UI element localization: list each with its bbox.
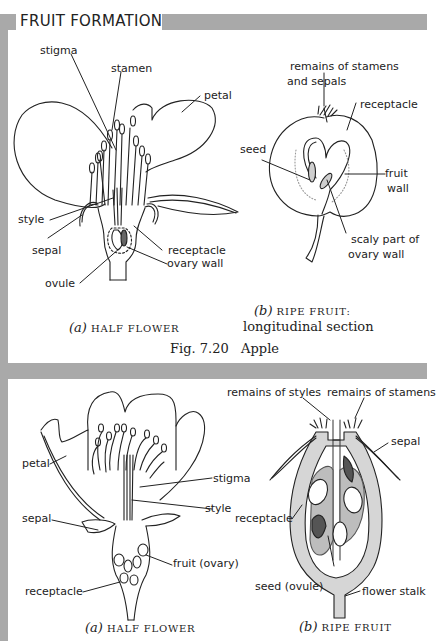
- label-fruit-wall-2: wall: [387, 182, 409, 195]
- caption-apple-b-sub: longitudinal section: [243, 319, 374, 334]
- label-ovary-wall: ovary wall: [167, 257, 223, 270]
- label-receptacle-b: receptacle: [360, 98, 418, 111]
- label-fruit-wall-1: fruit: [385, 167, 408, 180]
- label-stigma: stigma: [40, 44, 78, 57]
- label-scaly-1: scaly part of: [351, 233, 419, 246]
- caption-letter: (b): [299, 619, 317, 634]
- caption-letter: (a): [85, 620, 103, 635]
- label-flower-stalk: flower stalk: [362, 585, 426, 598]
- label-sepal-b2: sepal: [391, 435, 420, 448]
- label-receptacle-b2: receptacle: [235, 512, 293, 525]
- figure-caption: Fig. 7.20 Apple: [170, 341, 279, 356]
- label-scaly-2: ovary wall: [348, 248, 404, 261]
- label-remains-line1: remains of stamens: [290, 60, 399, 73]
- label-petal-2: petal: [22, 457, 50, 470]
- label-ovule: ovule: [45, 277, 75, 290]
- label-remains-line2: and sepals: [287, 75, 346, 88]
- caption-letter: (a): [69, 320, 87, 335]
- label-style-2: style: [205, 502, 231, 515]
- label-stigma-2: stigma: [213, 472, 251, 485]
- caption-text: RIPE FRUIT: [322, 622, 392, 633]
- label-seed-ovule: seed (ovule): [255, 580, 323, 593]
- second-half-flower-leaders: [50, 456, 212, 592]
- caption-second-a: (a) HALF FLOWER: [85, 620, 195, 635]
- caption-second-b: (b) RIPE FRUIT: [299, 619, 392, 634]
- label-receptacle: receptacle: [168, 244, 226, 257]
- label-remains-stamens: remains of stamens: [327, 386, 436, 399]
- caption-apple-b: (b) RIPE FRUIT:: [254, 303, 351, 318]
- caption-text: HALF FLOWER: [91, 323, 179, 334]
- label-fruit-ovary: fruit (ovary): [173, 557, 239, 570]
- label-seed: seed: [240, 143, 266, 156]
- label-remains-styles: remains of styles: [227, 386, 321, 399]
- label-style: style: [18, 213, 44, 226]
- caption-letter: (b): [254, 303, 272, 318]
- caption-text: RIPE FRUIT:: [277, 306, 351, 317]
- label-receptacle-2: receptacle: [25, 585, 83, 598]
- caption-text: HALF FLOWER: [107, 623, 195, 634]
- label-sepal-2: sepal: [22, 512, 51, 525]
- label-stamen: stamen: [111, 62, 152, 75]
- label-sepal: sepal: [32, 244, 61, 257]
- label-petal: petal: [204, 89, 232, 102]
- caption-apple-a: (a) HALF FLOWER: [69, 320, 179, 335]
